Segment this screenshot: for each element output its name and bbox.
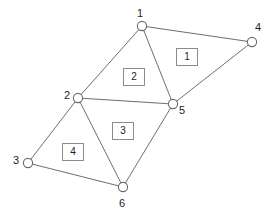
mesh-canvas xyxy=(0,0,273,216)
mesh-edge-1-4 xyxy=(142,26,252,42)
mesh-edge-2-6 xyxy=(78,98,123,187)
mesh-edge-1-2 xyxy=(78,26,142,98)
mesh-node-6[interactable] xyxy=(118,182,127,191)
mesh-edge-2-5 xyxy=(78,98,173,104)
mesh-node-3[interactable] xyxy=(23,158,32,167)
node-group xyxy=(23,21,256,191)
mesh-edge-3-6 xyxy=(28,163,123,187)
mesh-node-5[interactable] xyxy=(168,99,177,108)
edge-group xyxy=(28,26,252,187)
node-label-6: 6 xyxy=(119,198,125,209)
face-label-1: 1 xyxy=(176,48,198,66)
mesh-node-1[interactable] xyxy=(137,21,146,30)
face-label-3: 3 xyxy=(112,122,134,140)
face-label-2: 2 xyxy=(123,68,145,86)
mesh-diagram: 123456 1234 xyxy=(0,0,273,216)
node-label-5: 5 xyxy=(179,105,185,116)
node-label-3: 3 xyxy=(13,155,19,166)
mesh-node-4[interactable] xyxy=(247,37,256,46)
mesh-node-2[interactable] xyxy=(73,93,82,102)
node-label-4: 4 xyxy=(255,22,261,33)
face-label-4: 4 xyxy=(62,143,84,161)
node-label-1: 1 xyxy=(137,8,143,19)
mesh-edge-1-5 xyxy=(142,26,173,104)
node-label-2: 2 xyxy=(64,90,70,101)
mesh-edge-5-6 xyxy=(123,104,173,187)
